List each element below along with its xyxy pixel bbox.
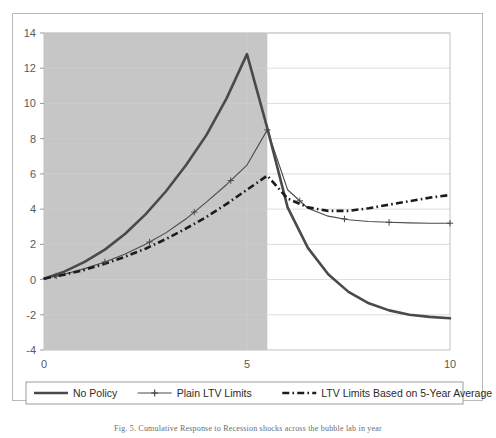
- y-tick-label: -4: [26, 344, 36, 356]
- y-tick-label: 14: [24, 27, 36, 39]
- y-tick-label: 2: [30, 238, 36, 250]
- legend-label-2: LTV Limits Based on 5-Year Average: [321, 387, 492, 399]
- y-tick-label: 12: [24, 62, 36, 74]
- x-tick-label: 5: [244, 358, 250, 370]
- figure-container: -4-2024681012140510No PolicyPlain LTV Li…: [0, 0, 496, 438]
- legend-label-0: No Policy: [73, 387, 118, 399]
- y-tick-label: 6: [30, 168, 36, 180]
- x-tick-label: 0: [41, 358, 47, 370]
- y-tick-label: 0: [30, 274, 36, 286]
- legend-label-1: Plain LTV Limits: [177, 387, 252, 399]
- figure-caption: Fig. 5. Cumulative Response to Recession…: [0, 424, 496, 433]
- y-tick-label: -2: [26, 309, 36, 321]
- chart-canvas: -4-2024681012140510No PolicyPlain LTV Li…: [0, 0, 496, 438]
- y-tick-label: 8: [30, 133, 36, 145]
- y-tick-label: 10: [24, 97, 36, 109]
- x-tick-label: 10: [444, 358, 456, 370]
- y-tick-label: 4: [30, 203, 36, 215]
